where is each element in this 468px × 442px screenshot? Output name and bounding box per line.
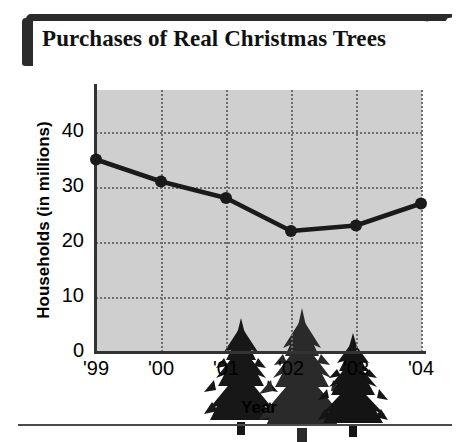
data-point-marker [155, 176, 167, 188]
y-axis-tick-label: 20 [30, 229, 84, 252]
data-point-marker [220, 192, 232, 204]
data-point-marker [285, 225, 297, 237]
x-axis-tick-label: '04 [391, 357, 451, 380]
data-point-marker [415, 198, 427, 210]
y-axis-tick-label: 10 [30, 284, 84, 307]
x-axis-tick-label: '02 [261, 357, 321, 380]
x-axis-tick-label: '01 [196, 357, 256, 380]
x-axis-tick-label: '00 [131, 357, 191, 380]
footer-rule [18, 424, 452, 426]
data-point-marker [90, 154, 102, 166]
x-axis-tick-label: '03 [326, 357, 386, 380]
x-axis-title: Year [94, 398, 424, 418]
series-polyline [96, 160, 421, 232]
y-axis-tick-label: 30 [30, 174, 84, 197]
data-point-marker [350, 220, 362, 232]
y-axis-tick-label: 40 [30, 119, 84, 142]
x-axis-tick-label: '99 [66, 357, 126, 380]
